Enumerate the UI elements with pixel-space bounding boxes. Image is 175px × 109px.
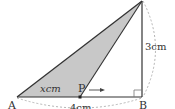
label-p: P [78, 82, 86, 95]
label-b: B [139, 99, 147, 109]
arrow-head-icon [100, 88, 105, 92]
point-p-marker [79, 96, 82, 99]
label-xcm: xcm [40, 83, 61, 94]
label-3cm: 3cm [145, 41, 167, 52]
right-angle-mark [134, 90, 142, 97]
triangle-diagram: xcm P A B 4cm 3cm [0, 0, 175, 109]
label-a: A [7, 99, 17, 109]
label-4cm: 4cm [70, 102, 92, 109]
